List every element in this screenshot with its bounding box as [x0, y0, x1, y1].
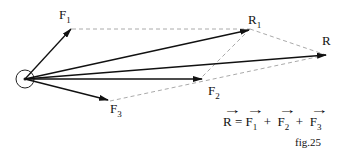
vector-F1: [25, 29, 71, 79]
label-F2: F2: [208, 83, 220, 101]
vector-R: [25, 55, 326, 79]
equation: R = F1 + F2 + F3: [223, 114, 321, 132]
eq-F3: F3: [310, 114, 322, 132]
eq-plus: +: [296, 114, 303, 129]
label-F1: F1: [59, 7, 71, 25]
vector-F3: [25, 79, 108, 100]
eq-F1: F1: [246, 114, 258, 132]
eq-plus: +: [264, 114, 271, 129]
label-R1: R1: [248, 12, 261, 30]
vector-R1: [25, 30, 249, 79]
label-R: R: [322, 33, 331, 49]
figure-caption: fig.25: [295, 136, 321, 148]
label-F3: F3: [110, 101, 122, 119]
eq-R: R: [223, 114, 232, 130]
vectors: [25, 29, 326, 100]
eq-F2: F2: [278, 114, 290, 132]
